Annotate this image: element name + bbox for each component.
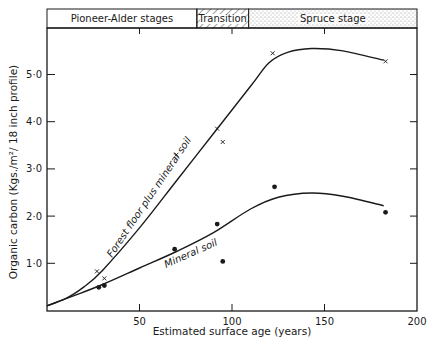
- dot-marker: [220, 259, 225, 264]
- y-tick-label: 1·0: [26, 258, 42, 269]
- stage-band: Pioneer-Alder stages Transition Spruce s…: [47, 9, 417, 28]
- plot-frame: [47, 28, 417, 311]
- cross-marker: [215, 127, 219, 131]
- chart: Pioneer-Alder stages Transition Spruce s…: [0, 0, 434, 348]
- curve-forest-floor-plus-mineral-soil: [47, 48, 384, 305]
- x-tick-label: 50: [133, 316, 146, 327]
- curve-label-forest-floor: Forest floor plus mineral soil: [105, 135, 194, 259]
- dot-marker: [215, 222, 220, 227]
- x-axis-title: Estimated surface age (years): [153, 325, 312, 337]
- y-tick-label: 5·0: [26, 69, 42, 80]
- cross-marker: [95, 269, 99, 273]
- curve-label-mineral-soil: Mineral soil: [162, 237, 219, 270]
- y-axis-ticks: 1·02·03·04·05·0: [26, 69, 417, 269]
- band-spruce-label: Spruce stage: [300, 13, 366, 24]
- y-tick-label: 3·0: [26, 163, 42, 174]
- band-pioneer-label: Pioneer-Alder stages: [71, 13, 174, 24]
- x-tick-label: 150: [315, 316, 334, 327]
- dot-marker: [383, 210, 388, 215]
- y-tick-label: 2·0: [26, 211, 42, 222]
- markers-forest-floor-plus-mineral-soil: [95, 51, 388, 280]
- x-tick-label: 200: [407, 316, 426, 327]
- cross-marker: [384, 59, 388, 63]
- dot-marker: [102, 283, 107, 288]
- cross-marker: [102, 276, 106, 280]
- dot-marker: [96, 285, 101, 290]
- y-axis-title: Organic carbon (Kgs./m²/ 18 inch profile…: [7, 65, 19, 279]
- x-axis-ticks: 50100150200: [133, 28, 426, 327]
- y-tick-label: 4·0: [26, 116, 42, 127]
- dot-marker: [272, 184, 277, 189]
- cross-marker: [221, 140, 225, 144]
- band-transition-label: Transition: [198, 13, 247, 24]
- cross-marker: [271, 51, 275, 55]
- dot-marker: [172, 247, 177, 252]
